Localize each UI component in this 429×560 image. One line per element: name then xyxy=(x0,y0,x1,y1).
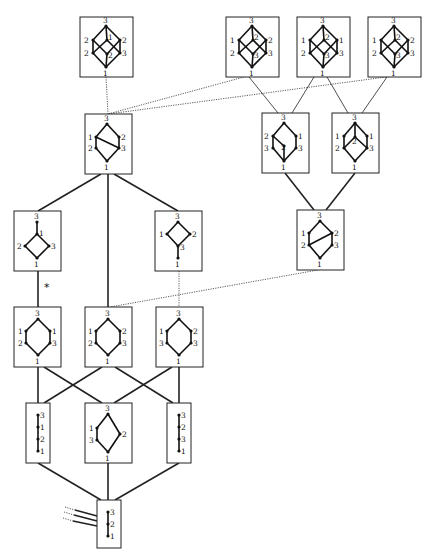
vertex-label: 1 xyxy=(335,132,340,141)
cover-edge-F-J xyxy=(285,173,314,210)
vertex-label: 3 xyxy=(264,144,269,153)
vertex-label: 1 xyxy=(103,69,108,78)
vertex-label: 1 xyxy=(181,447,186,456)
vertex-label: 2 xyxy=(40,435,45,444)
vertex-label: 2 xyxy=(192,230,197,239)
vertex-label: 1 xyxy=(105,357,110,366)
vertex-label: 3 xyxy=(249,16,254,25)
vertex-label: 3 xyxy=(352,113,357,122)
vertex-label: 3 xyxy=(104,114,109,123)
vertex-label: 1 xyxy=(391,69,396,78)
vertex-label: 2 xyxy=(335,144,340,153)
vertex-label: 3 xyxy=(391,16,396,25)
lattice-node-Q: 321 xyxy=(97,500,121,548)
stub-edge xyxy=(73,521,97,526)
vertex-label: 2 xyxy=(254,33,259,42)
vertex-label: 3 xyxy=(254,51,259,60)
vertex-label: 3 xyxy=(35,309,40,318)
vertex-label: 3 xyxy=(159,339,164,348)
vertex-label: 2 xyxy=(325,33,330,42)
vertex-label: 3 xyxy=(334,241,339,250)
lattice-node-M: 312331 xyxy=(156,307,203,367)
lattice-vertex xyxy=(379,38,382,41)
stub-edge xyxy=(75,510,97,516)
vertex-label: 3 xyxy=(122,49,127,58)
lattice-edge xyxy=(394,26,395,40)
vertex-label: 1 xyxy=(175,260,180,269)
cover-edge-C-F xyxy=(292,77,314,113)
vertex-label: 2 xyxy=(264,132,269,141)
vertex-label: 2 xyxy=(88,339,93,348)
vertex-label: 2 xyxy=(84,49,89,58)
vertex-label: 1 xyxy=(18,327,23,336)
vertex-label: 2 xyxy=(281,143,286,152)
vertex-label: 3 xyxy=(396,51,401,60)
stub-edge-continuation xyxy=(63,518,73,521)
lattice-vertex xyxy=(342,146,345,149)
lattice-vertex xyxy=(165,329,168,332)
lattice-node-L: 312231 xyxy=(85,307,132,367)
vertex-label: 2 xyxy=(18,339,23,348)
vertex-label: 1 xyxy=(35,357,40,366)
vertex-label: 2 xyxy=(334,229,339,238)
lattice-vertex xyxy=(24,329,27,332)
vertex-label: 1 xyxy=(372,36,377,45)
stub-edge-continuation xyxy=(64,512,74,515)
vertex-label: 3 xyxy=(105,309,110,318)
lattice-vertex xyxy=(95,438,98,441)
vertex-label: 3 xyxy=(298,144,303,153)
lattice-edge xyxy=(252,26,253,40)
lattice-edge xyxy=(106,26,107,40)
lattice-vertex xyxy=(94,329,97,332)
vertex-label: 2 xyxy=(193,327,198,336)
vertex-label: 3 xyxy=(176,309,181,318)
lattice-vertex xyxy=(165,232,168,235)
vertex-label: 1 xyxy=(52,327,57,336)
external-stub-edges xyxy=(63,507,97,526)
lattice-hasse-diagram: 3212223131222331312123313122233131223132… xyxy=(0,0,429,560)
vertex-label: 2 xyxy=(122,327,127,336)
lattice-node-O: 31321 xyxy=(85,403,132,463)
cover-edge-D-G xyxy=(362,77,387,113)
vertex-label: 2 xyxy=(122,36,127,45)
vertex-label: 3 xyxy=(103,16,108,25)
vertex-label: 2 xyxy=(301,49,306,58)
lattice-vertex xyxy=(308,38,311,41)
vertex-label: 3 xyxy=(181,411,186,420)
vertex-label: 1 xyxy=(249,69,254,78)
lattice-edge xyxy=(323,26,324,40)
lattice-node-P: 3231 xyxy=(167,403,191,463)
lattice-vertex xyxy=(307,231,310,234)
vertex-label: 1 xyxy=(34,260,39,269)
cover-edge-A-E xyxy=(106,77,108,114)
vertex-label: 1 xyxy=(88,327,93,336)
vertex-label: 3 xyxy=(317,211,322,220)
vertex-label: 2 xyxy=(410,36,415,45)
lattice-node-I: 31231 xyxy=(155,211,202,271)
lattice-vertex xyxy=(271,146,274,149)
vertex-label: 2 xyxy=(372,49,377,58)
lattice-node-G: 3121231 xyxy=(332,113,379,173)
lattice-vertex xyxy=(95,426,98,429)
lattice-vertex xyxy=(165,341,168,344)
lattice-vertex xyxy=(342,134,345,137)
vertex-label: 3 xyxy=(40,411,45,420)
lattice-vertex xyxy=(94,341,97,344)
vertex-label: 3 xyxy=(281,113,286,122)
cover-edge-B-E xyxy=(108,77,244,114)
vertex-label: 1 xyxy=(369,132,374,141)
vertex-label: 2 xyxy=(230,49,235,58)
vertex-label: 3 xyxy=(34,212,39,221)
lattice-node-N: 3121 xyxy=(26,403,50,463)
vertex-label: 2 xyxy=(181,423,186,432)
vertex-label: 2 xyxy=(268,36,273,45)
vertex-label: 1 xyxy=(40,423,45,432)
lattice-nodes-layer: 3212223131222331312123313122233131223132… xyxy=(14,16,421,548)
vertex-label: 3 xyxy=(121,144,126,153)
vertex-label: 2 xyxy=(108,51,113,60)
cover-edge-E-I xyxy=(114,174,178,211)
stub-edge xyxy=(74,515,97,521)
vertex-label: 1 xyxy=(301,229,306,238)
vertex-label: 3 xyxy=(193,339,198,348)
lattice-vertex xyxy=(94,135,97,138)
